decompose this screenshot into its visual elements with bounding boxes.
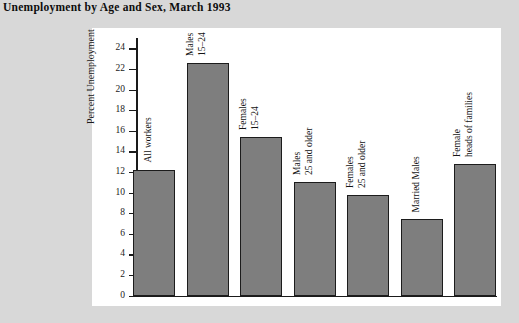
- bar-category-label: Married Males: [410, 156, 422, 212]
- bar: [454, 164, 496, 296]
- bar-category-label-line: 15–24: [196, 32, 208, 56]
- bar-category-label-line: Females: [238, 98, 250, 130]
- bar-group: Males25 and older: [294, 182, 336, 295]
- bar-group: Femaleheads of families: [454, 164, 496, 296]
- bar-category-label-line: Males: [292, 128, 304, 176]
- bar-category-label-line: 25 and older: [357, 140, 369, 188]
- bar-category-label: Males15–24: [185, 32, 208, 56]
- bar-category-label-line: Female: [452, 92, 464, 157]
- bar-group: All workers: [133, 170, 175, 296]
- bar-category-label-line: All workers: [143, 118, 155, 163]
- bar-group: Females15–24: [240, 137, 282, 296]
- bar-category-label-line: 25 and older: [303, 128, 315, 176]
- bar-category-label-line: 15–24: [250, 98, 262, 130]
- bars-layer: All workersMales15–24Females15–24Males25…: [92, 28, 501, 306]
- chart-title: Unemployment by Age and Sex, March 1993: [3, 1, 231, 13]
- bar-category-label-line: Married Males: [410, 156, 422, 212]
- bar-group: Married Males: [401, 219, 443, 295]
- bar-category-label: Males25 and older: [292, 128, 315, 176]
- bar-category-label: Females25 and older: [345, 140, 368, 188]
- bar-group: Females25 and older: [347, 195, 389, 296]
- bar: [187, 63, 229, 296]
- figure: Unemployment by Age and Sex, March 1993 …: [0, 0, 519, 323]
- bar-category-label-line: Males: [185, 32, 197, 56]
- bar-group: Males15–24: [187, 63, 229, 296]
- bar: [294, 182, 336, 295]
- bar-category-label: All workers: [143, 118, 155, 163]
- bar: [240, 137, 282, 296]
- plot-panel: 024681012141618202224 Percent Unemployme…: [92, 28, 501, 306]
- bar: [347, 195, 389, 296]
- bar-category-label: Females15–24: [238, 98, 261, 130]
- bar: [133, 170, 175, 296]
- bar: [401, 219, 443, 295]
- bar-category-label-line: Females: [345, 140, 357, 188]
- bar-category-label-line: heads of families: [464, 92, 476, 157]
- bar-category-label: Femaleheads of families: [452, 92, 475, 157]
